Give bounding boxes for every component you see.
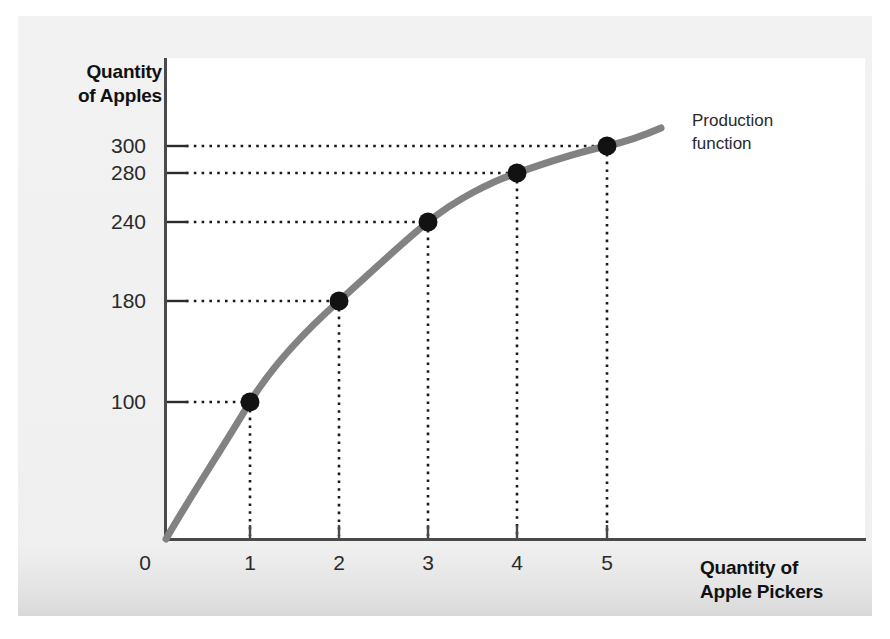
x-axis-title: Quantity of Apple Pickers bbox=[700, 556, 870, 604]
y-tick-label-280: 280 bbox=[82, 161, 146, 185]
vertical-guide-lines bbox=[250, 146, 607, 536]
production-function-curve bbox=[166, 128, 661, 539]
x-axis-tick-marks bbox=[250, 525, 607, 539]
y-tick-label-300: 300 bbox=[82, 134, 146, 158]
data-point-1 bbox=[241, 393, 260, 412]
y-tick-label-100: 100 bbox=[82, 390, 146, 414]
figure-page: Quantity of Apples Quantity of Apple Pic… bbox=[0, 0, 890, 639]
horizontal-guide-lines bbox=[186, 146, 607, 402]
y-tick-label-240: 240 bbox=[82, 210, 146, 234]
x-tick-label-4: 4 bbox=[497, 551, 537, 575]
x-tick-label-0: 0 bbox=[125, 551, 165, 575]
x-tick-label-5: 5 bbox=[587, 551, 627, 575]
data-point-2 bbox=[330, 292, 349, 311]
x-tick-label-3: 3 bbox=[408, 551, 448, 575]
x-tick-label-2: 2 bbox=[319, 551, 359, 575]
production-function-annotation: Production function bbox=[692, 110, 842, 156]
data-point-5 bbox=[598, 137, 617, 156]
y-axis-tick-marks bbox=[165, 146, 188, 402]
y-tick-label-180: 180 bbox=[82, 289, 146, 313]
x-tick-label-1: 1 bbox=[230, 551, 270, 575]
y-axis-title: Quantity of Apples bbox=[62, 60, 162, 108]
data-point-4 bbox=[508, 164, 527, 183]
data-point-3 bbox=[419, 213, 438, 232]
